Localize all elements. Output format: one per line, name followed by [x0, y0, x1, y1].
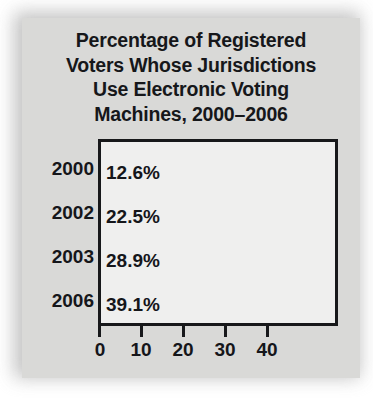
chart-title-line-1: Percentage of Registered: [30, 28, 352, 53]
xaxis-label-40: 40: [256, 339, 277, 361]
value-axis: 0 10 20 30 40: [98, 326, 338, 374]
chart-title-line-2: Voters Whose Jurisdictions: [30, 53, 352, 78]
xaxis-label-0: 0: [95, 339, 106, 361]
bar-value-2003: 28.9%: [101, 250, 160, 272]
category-label-2002: 2002: [52, 202, 94, 224]
bar-value-2000: 12.6%: [101, 162, 160, 184]
plot-area: 12.6% 22.5% 28.9% 39.1%: [98, 139, 338, 326]
xaxis-label-20: 20: [172, 339, 193, 361]
xaxis-tick-10: [140, 326, 143, 337]
chart-title-line-4: Machines, 2000–2006: [30, 102, 352, 127]
category-axis: 2000 2002 2003 2006: [22, 139, 94, 326]
chart-card: Percentage of Registered Voters Whose Ju…: [22, 18, 360, 378]
xaxis-tick-0: [98, 326, 101, 337]
category-label-2006: 2006: [52, 290, 94, 312]
category-label-2000: 2000: [52, 158, 94, 180]
category-label-2003: 2003: [52, 246, 94, 268]
bar-value-2002: 22.5%: [101, 206, 160, 228]
xaxis-label-30: 30: [214, 339, 235, 361]
xaxis-tick-20: [182, 326, 185, 337]
chart-figure: Percentage of Registered Voters Whose Ju…: [0, 0, 373, 398]
xaxis-tick-30: [224, 326, 227, 337]
xaxis-tick-40: [266, 326, 269, 337]
bar-value-2006: 39.1%: [101, 294, 160, 316]
xaxis-label-10: 10: [130, 339, 151, 361]
plot-inner: 12.6% 22.5% 28.9% 39.1%: [101, 142, 335, 323]
chart-title: Percentage of Registered Voters Whose Ju…: [30, 28, 352, 126]
chart-title-line-3: Use Electronic Voting: [30, 77, 352, 102]
